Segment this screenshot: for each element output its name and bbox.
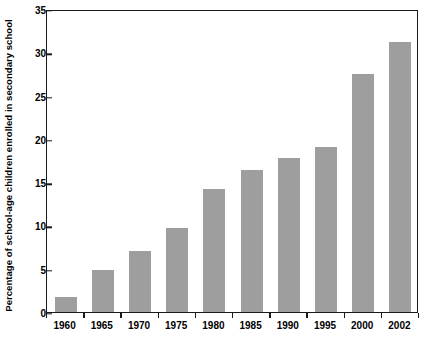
- x-axis-tick-label: 1990: [277, 320, 299, 331]
- y-axis-tick-label: 20: [14, 134, 46, 145]
- x-axis-tick-mark: [306, 313, 307, 318]
- x-axis-tick-mark: [344, 313, 345, 318]
- bar-slot: [121, 11, 158, 312]
- bar[interactable]: [166, 228, 188, 312]
- y-axis-tick-label: 10: [14, 221, 46, 232]
- x-axis-tick-label: 1995: [314, 320, 336, 331]
- x-axis-tick-mark: [46, 313, 47, 318]
- plot-area: [46, 10, 418, 313]
- y-axis-tick-labels: 05101520253035: [14, 0, 46, 359]
- y-axis-tick-label: 35: [14, 5, 46, 16]
- x-axis-tick-label: 2002: [388, 320, 410, 331]
- y-axis-tick-label: 25: [14, 91, 46, 102]
- x-axis-tick-label: 1980: [202, 320, 224, 331]
- y-axis-tick-label: 15: [14, 178, 46, 189]
- x-axis-tick-label: 1975: [165, 320, 187, 331]
- x-axis-tick-label: 1960: [53, 320, 75, 331]
- bar[interactable]: [278, 158, 300, 312]
- bar[interactable]: [92, 270, 114, 312]
- x-axis-tick-label: 1985: [239, 320, 261, 331]
- bar[interactable]: [203, 189, 225, 312]
- bar-slot: [307, 11, 344, 312]
- x-axis-tick-mark: [195, 313, 196, 318]
- x-axis-tick-mark: [158, 313, 159, 318]
- bar-slot: [196, 11, 233, 312]
- x-axis-tick-label: 2000: [351, 320, 373, 331]
- x-axis-tick-labels: 1960196519701975198019851990199520002002: [46, 320, 418, 340]
- bar[interactable]: [352, 74, 374, 312]
- x-axis-tick-mark: [418, 313, 419, 318]
- x-axis-tick-mark: [120, 313, 121, 318]
- bar-slot: [233, 11, 270, 312]
- x-axis-tick-mark: [381, 313, 382, 318]
- bar[interactable]: [315, 147, 337, 312]
- bar-series: [47, 11, 417, 312]
- x-axis-tick-label: 1970: [128, 320, 150, 331]
- x-axis-tick-mark: [83, 313, 84, 318]
- y-axis-title-text: Percentage of school-age children enroll…: [3, 19, 14, 311]
- y-axis-tick-label: 30: [14, 48, 46, 59]
- y-axis-tick-label: 5: [14, 264, 46, 275]
- bar[interactable]: [129, 251, 151, 312]
- bar-chart-figure: Percentage of school-age children enroll…: [0, 0, 431, 359]
- x-axis-tick-mark: [232, 313, 233, 318]
- bar[interactable]: [55, 297, 77, 312]
- bar-slot: [47, 11, 84, 312]
- y-axis-tick-label: 0: [14, 308, 46, 319]
- bar-slot: [382, 11, 419, 312]
- bar-slot: [159, 11, 196, 312]
- x-axis-tick-label: 1965: [91, 320, 113, 331]
- x-axis-tick-mark: [269, 313, 270, 318]
- bar[interactable]: [389, 42, 411, 312]
- bar-slot: [84, 11, 121, 312]
- bar-slot: [345, 11, 382, 312]
- bar-slot: [270, 11, 307, 312]
- bar[interactable]: [241, 170, 263, 312]
